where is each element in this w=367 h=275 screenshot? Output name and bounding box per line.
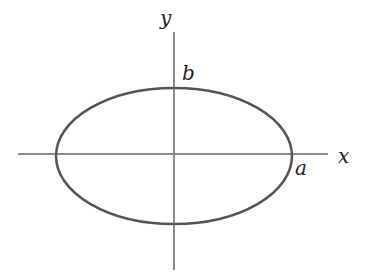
y-axis-label: y: [159, 6, 172, 30]
ellipse-diagram: y x b a: [0, 0, 367, 275]
semi-major-label: a: [295, 156, 307, 180]
semi-minor-label: b: [182, 61, 195, 85]
x-axis-label: x: [338, 144, 349, 168]
